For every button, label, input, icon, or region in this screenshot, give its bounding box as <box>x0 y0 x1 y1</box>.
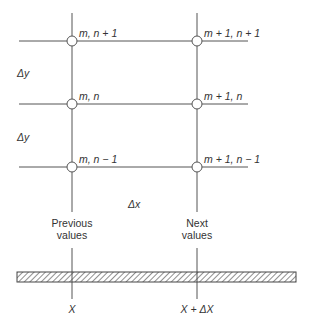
label-m-plus-1-n-minus-1: m + 1, n − 1 <box>204 153 260 165</box>
node-m-n-minus-1 <box>67 162 77 172</box>
label-m-plus-1-n-plus-1: m + 1, n + 1 <box>204 27 260 39</box>
axis-label-x: X <box>67 303 76 315</box>
node-m-plus-1-n-plus-1 <box>192 36 202 46</box>
finite-difference-grid-diagram: m, n + 1 m + 1, n + 1 m, n m + 1, n m, n… <box>0 0 309 336</box>
node-m-n <box>67 99 77 109</box>
node-m-n-plus-1 <box>67 36 77 46</box>
label-m-n-plus-1: m, n + 1 <box>79 27 117 39</box>
node-m-plus-1-n-minus-1 <box>192 162 202 172</box>
hatched-wall-bar <box>17 272 296 282</box>
label-m-plus-1-n: m + 1, n <box>204 90 242 102</box>
delta-y-lower-label: Δy <box>16 131 30 143</box>
previous-values-line2: values <box>57 229 87 241</box>
label-m-n-minus-1: m, n − 1 <box>79 153 117 165</box>
next-values-line2: values <box>182 229 212 241</box>
label-m-n: m, n <box>79 90 100 102</box>
node-m-plus-1-n <box>192 99 202 109</box>
delta-y-upper-label: Δy <box>16 67 30 79</box>
delta-x-label: Δx <box>127 198 141 210</box>
next-values-line1: Next <box>186 217 208 229</box>
previous-values-line1: Previous <box>52 217 93 229</box>
axis-label-x-plus-dx: X + ΔX <box>179 303 214 315</box>
